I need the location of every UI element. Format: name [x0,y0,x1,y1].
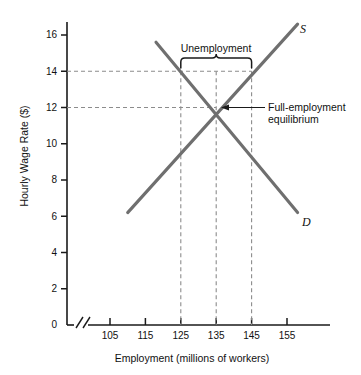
x-axis-title: Employment (millions of workers) [67,352,317,364]
y-axis-ticks [61,35,67,289]
demand-curve [156,42,298,212]
y-tick-label-8: 8 [33,174,57,185]
y-tick-label-14: 14 [33,66,57,77]
full-employment-equilibrium-annotation: Full-employment equilibrium [268,101,361,125]
y-tick-label-12: 12 [33,102,57,113]
y-tick-label-16: 16 [33,29,57,40]
origin-label: 0 [33,319,57,330]
y-tick-label-2: 2 [33,283,57,294]
x-tick-label-105: 105 [95,330,125,341]
unemployment-brace [181,54,252,68]
employment-wage-chart: Hourly Wage Rate ($) Employment (million… [0,0,361,375]
axis-break-icon [76,317,83,328]
y-tick-label-10: 10 [33,138,57,149]
x-axis-ticks [110,318,287,325]
axis-break-icon-second [83,317,90,328]
unemployment-annotation-label: Unemployment [156,42,276,54]
x-tick-label-135: 135 [201,330,231,341]
reference-lines [67,71,252,325]
equilibrium-label-line-1: Full-employment [268,101,361,113]
equilibrium-label-line-2: equilibrium [268,113,361,125]
x-tick-label-125: 125 [166,330,196,341]
y-tick-label-4: 4 [33,247,57,258]
x-tick-label-155: 155 [272,330,302,341]
demand-curve-label: D [302,215,311,230]
supply-curve-label: S [300,22,306,37]
y-tick-label-6: 6 [33,211,57,222]
x-tick-label-145: 145 [237,330,267,341]
y-axis-title: Hourly Wage Rate ($) [18,76,30,236]
x-tick-label-115: 115 [130,330,160,341]
